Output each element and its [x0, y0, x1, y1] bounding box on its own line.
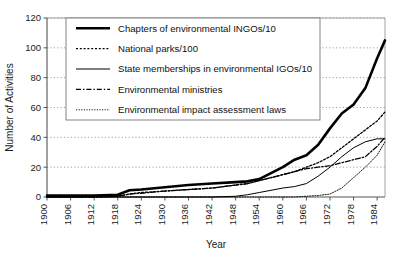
x-tick-label: 1954 — [250, 204, 261, 225]
x-tick-label: 1936 — [179, 204, 190, 225]
legend-label-3: Environmental ministries — [118, 84, 223, 95]
x-tick-label: 1900 — [38, 204, 49, 225]
y-tick-label: 40 — [30, 132, 41, 143]
y-axis-title: Number of Activities — [4, 63, 15, 151]
legend-label-1: National parks/100 — [118, 43, 198, 54]
legend-label-4: Environmental impact assessment laws — [118, 104, 286, 115]
x-tick-label: 1930 — [156, 204, 167, 225]
x-tick-label: 1984 — [368, 204, 379, 225]
line-chart: 020406080100120 190019061912191819241930… — [0, 0, 399, 262]
y-tick-label: 100 — [25, 42, 41, 53]
y-tick-label: 0 — [36, 191, 41, 202]
y-tick-label: 60 — [30, 102, 41, 113]
legend-label-0: Chapters of environmental INGOs/10 — [118, 23, 276, 34]
x-tick-label: 1972 — [321, 204, 332, 225]
y-tick-label: 120 — [25, 12, 41, 23]
x-tick-label: 1906 — [62, 204, 73, 225]
x-tick-label: 1912 — [85, 204, 96, 225]
x-tick-label: 1960 — [274, 204, 285, 225]
x-tick-label: 1978 — [345, 204, 356, 225]
x-axis-title: Year — [206, 239, 227, 250]
chart-canvas: 020406080100120 190019061912191819241930… — [0, 0, 399, 262]
x-tick-label: 1918 — [109, 204, 120, 225]
x-tick-label: 1948 — [227, 204, 238, 225]
y-tick-label: 80 — [30, 72, 41, 83]
legend-label-2: State memberships in environmental IGOs/… — [118, 63, 312, 74]
legend: Chapters of environmental INGOs/10Nation… — [66, 18, 320, 120]
x-tick-label: 1924 — [132, 204, 143, 225]
x-tick-label: 1942 — [203, 204, 214, 225]
y-tick-label: 20 — [30, 162, 41, 173]
x-tick-label: 1966 — [297, 204, 308, 225]
